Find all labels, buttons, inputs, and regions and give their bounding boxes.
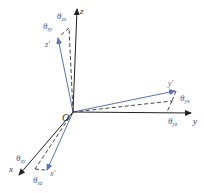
- y-axis-label: y: [192, 116, 197, 126]
- theta-yz-label: θyz: [168, 116, 178, 127]
- z-prime-label: z': [44, 40, 50, 49]
- y-dashed-projection: [73, 101, 172, 112]
- theta-xy-label: θxy: [16, 153, 26, 164]
- theta-zx-label: θzx: [57, 11, 67, 22]
- x-dashed-connector: [35, 169, 45, 170]
- theta-zy-label: θzy: [43, 21, 53, 32]
- origin-label: O: [62, 112, 69, 123]
- y-prime-label: y': [167, 79, 174, 88]
- x-prime-label: x': [49, 169, 56, 178]
- y-prime-axis: [73, 91, 175, 112]
- z-axis: [73, 9, 77, 112]
- theta-yx-label: θyx: [180, 93, 190, 104]
- y-dashed-connector: [167, 101, 172, 112]
- z-axis-label: z: [79, 6, 84, 16]
- z-dashed-projection: [69, 28, 73, 112]
- y-dashed-small: [172, 91, 176, 101]
- y-axis: [73, 112, 191, 113]
- z-dashed-connector: [60, 28, 69, 36]
- theta-xz-label: θxz: [33, 175, 43, 186]
- z-prime-axis: [58, 38, 73, 112]
- coordinate-rotation-diagram: z y x O z' y' x' θzx θzy θyx θyz θxy θxz: [0, 0, 204, 193]
- x-axis-label: x: [8, 164, 13, 174]
